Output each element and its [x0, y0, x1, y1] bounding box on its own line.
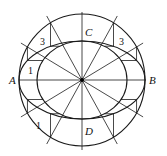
label-D: D [84, 125, 93, 137]
center-point [80, 78, 84, 82]
radial-line [47, 80, 82, 144]
label-A: A [8, 74, 16, 86]
radial-line [82, 43, 143, 80]
step-label-3-left: 3 [40, 36, 45, 47]
label-C: C [85, 26, 93, 38]
step-label-3-right: 3 [119, 36, 124, 47]
step-label-1-bottom: 1 [36, 120, 41, 131]
radial-line [47, 16, 82, 80]
radial-line [82, 80, 143, 117]
step-label-1-left: 1 [28, 65, 33, 76]
label-B: B [149, 74, 156, 86]
radial-line [21, 80, 82, 117]
ellipse-construction-diagram: A B C D 3 3 1 1 [0, 0, 167, 156]
